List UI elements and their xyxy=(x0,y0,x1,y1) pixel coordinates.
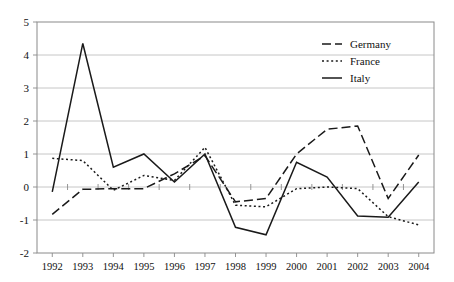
x-axis-tick-labels: 1992199319941995199619971998199920002001… xyxy=(42,261,430,272)
y-axis-ticks xyxy=(33,22,37,253)
y-tick-label: 5 xyxy=(24,16,30,28)
legend-label-germany: Germany xyxy=(350,38,391,50)
x-tick-label: 1993 xyxy=(72,261,93,272)
y-tick-label: 1 xyxy=(24,148,30,160)
y-tick-label: 0 xyxy=(24,181,30,193)
y-tick-label: 4 xyxy=(24,49,30,61)
x-tick-label: 1997 xyxy=(194,261,215,272)
y-tick-label: -2 xyxy=(20,247,29,259)
legend-label-italy: Italy xyxy=(350,72,371,84)
chart-canvas: 543210-1-2 19921993199419951996199719981… xyxy=(0,0,454,282)
x-axis-ticks xyxy=(52,184,418,257)
y-tick-label: 3 xyxy=(24,82,30,94)
y-tick-label: 2 xyxy=(24,115,30,127)
x-tick-label: 2003 xyxy=(378,261,399,272)
x-tick-label: 2001 xyxy=(317,261,338,272)
series-line-germany xyxy=(52,126,418,214)
chart-legend: GermanyFranceItaly xyxy=(322,38,391,84)
x-tick-label: 1995 xyxy=(133,261,154,272)
x-tick-label: 1999 xyxy=(256,261,277,272)
x-tick-label: 1998 xyxy=(225,261,246,272)
y-tick-label: -1 xyxy=(20,214,29,226)
x-tick-label: 2004 xyxy=(408,261,430,272)
gridlines xyxy=(37,55,434,220)
x-tick-label: 1996 xyxy=(164,261,185,272)
x-tick-label: 2002 xyxy=(347,261,368,272)
x-tick-label: 1994 xyxy=(103,261,125,272)
legend-label-france: France xyxy=(350,55,380,67)
x-tick-label: 2000 xyxy=(286,261,307,272)
y-axis-tick-labels: 543210-1-2 xyxy=(20,16,30,259)
line-chart: 543210-1-2 19921993199419951996199719981… xyxy=(0,0,454,282)
series-line-france xyxy=(52,147,418,225)
x-tick-label: 1992 xyxy=(42,261,63,272)
